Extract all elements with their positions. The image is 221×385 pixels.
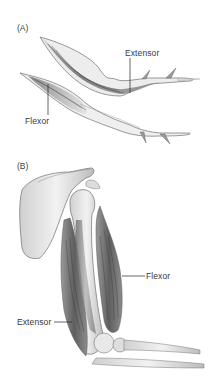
- panel-b-human-arm: (B): [0, 160, 221, 385]
- panel-a-arthropod-leg: (A): [0, 0, 221, 160]
- human-arm-illustration: [0, 160, 221, 385]
- label-flexor-b: Flexor: [146, 271, 170, 281]
- arthropod-leg-illustration: [0, 0, 221, 160]
- label-extensor-a: Extensor: [125, 48, 159, 58]
- label-flexor-a: Flexor: [25, 116, 49, 126]
- flexor-muscle-biceps: [96, 206, 122, 332]
- label-extensor-b: Extensor: [17, 317, 51, 327]
